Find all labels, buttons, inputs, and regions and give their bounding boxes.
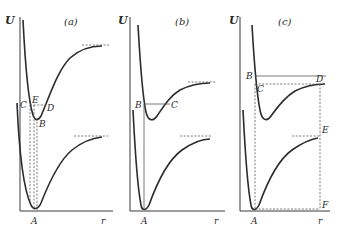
panel-c: U (c) B C D E F A r bbox=[229, 14, 330, 226]
x-axis-label: r bbox=[214, 216, 219, 226]
x-axis-label: r bbox=[318, 216, 323, 226]
point-label-F: F bbox=[321, 200, 329, 210]
panel-title: (b) bbox=[175, 16, 189, 27]
y-axis-label: U bbox=[5, 14, 16, 27]
y-axis-label: U bbox=[229, 14, 240, 27]
point-label-B: B bbox=[134, 100, 142, 110]
point-label-E: E bbox=[31, 95, 39, 105]
x-axis-label: r bbox=[101, 216, 106, 226]
point-label-D: D bbox=[46, 103, 54, 113]
point-label-A: A bbox=[140, 216, 148, 226]
point-label-C: C bbox=[257, 84, 264, 94]
point-label-E: E bbox=[321, 125, 329, 135]
point-label-A: A bbox=[250, 216, 258, 226]
point-label-C: C bbox=[20, 100, 27, 110]
ground-state-curve bbox=[133, 110, 210, 210]
panel-b: U (b) B C A r bbox=[118, 14, 225, 226]
point-label-D: D bbox=[315, 74, 323, 84]
y-axis-label: U bbox=[118, 14, 129, 27]
ground-state-curve bbox=[243, 110, 318, 210]
point-label-A: A bbox=[30, 216, 38, 226]
panel-title: (a) bbox=[64, 16, 78, 27]
potential-energy-diagram: U (a) C E D B A r U (b) B C A r bbox=[0, 0, 343, 232]
point-label-B: B bbox=[38, 119, 46, 129]
panel-title: (c) bbox=[278, 16, 292, 27]
panel-a: U (a) C E D B A r bbox=[5, 14, 113, 226]
excited-state-curve bbox=[252, 25, 325, 120]
point-label-C: C bbox=[171, 100, 178, 110]
point-label-B: B bbox=[245, 71, 253, 81]
